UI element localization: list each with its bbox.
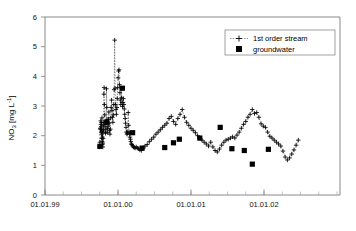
- stream-data-point: [206, 144, 210, 148]
- stream-data-point: [241, 122, 245, 126]
- y-tick-label-2: 2: [33, 131, 37, 140]
- stream-data-point: [259, 122, 263, 126]
- groundwater-data-point: [218, 125, 223, 130]
- groundwater-data-point: [97, 144, 102, 149]
- stream-data-point: [105, 105, 109, 109]
- y-tick-label-6: 6: [33, 13, 37, 22]
- groundwater-data-point: [197, 135, 202, 140]
- y-axis-title-bracket: ]: [7, 95, 16, 97]
- stream-data-point: [111, 120, 115, 124]
- stream-data-point: [209, 140, 213, 144]
- stream-data-point: [217, 147, 221, 151]
- stream-data-point: [171, 119, 175, 123]
- groundwater-data-point: [242, 148, 247, 153]
- y-axis-title: NO3 [mg L-1]: [6, 95, 17, 140]
- y-tick-label-4: 4: [33, 72, 37, 81]
- groundwater-data-point: [139, 146, 144, 151]
- stream-data-point: [237, 130, 241, 134]
- y-tick-label-5: 5: [33, 42, 37, 51]
- groundwater-data-point: [266, 147, 271, 152]
- stream-data-point: [124, 125, 128, 129]
- chart-legend[interactable]: 1st order stream groundwater: [225, 30, 335, 55]
- groundwater-data-point: [162, 145, 167, 150]
- stream-data-point: [252, 111, 256, 115]
- groundwater-data-point: [120, 86, 125, 91]
- x-tick-label-01.01.00: 01.01.00: [103, 200, 132, 209]
- stream-data-point: [116, 76, 120, 80]
- stream-data-point: [128, 137, 132, 141]
- legend-label-groundwater: groundwater: [253, 45, 295, 54]
- x-tick-label-01.01.01: 01.01.01: [176, 200, 205, 209]
- stream-data-point: [287, 156, 291, 160]
- stream-data-point: [109, 105, 113, 109]
- stream-data-point: [123, 121, 127, 125]
- stream-data-point: [239, 126, 243, 130]
- stream-data-point: [294, 143, 298, 147]
- stream-data-point: [102, 102, 106, 106]
- stream-data-point: [114, 112, 118, 116]
- stream-data-point: [250, 107, 254, 111]
- stream-data-point: [296, 138, 300, 142]
- stream-data-point: [111, 113, 115, 117]
- stream-data-point: [283, 155, 287, 159]
- stream-data-point: [180, 107, 184, 111]
- stream-data-point: [265, 130, 269, 134]
- x-tick-label-01.01.99: 01.01.99: [30, 200, 59, 209]
- stream-data-point: [255, 110, 259, 114]
- legend-label-stream: 1st order stream: [253, 34, 308, 43]
- stream-data-point: [123, 116, 127, 120]
- y-tick-label-1: 1: [33, 161, 37, 170]
- stream-data-point: [257, 115, 261, 119]
- x-tick-label-01.01.02: 01.01.02: [249, 200, 278, 209]
- stream-data-point: [182, 115, 186, 119]
- stream-series-markers: [97, 38, 300, 162]
- groundwater-data-point: [177, 137, 182, 142]
- y-tick-label-0: 0: [33, 191, 37, 200]
- stream-data-point: [167, 116, 171, 120]
- stream-data-point: [126, 123, 130, 127]
- y-tick-label-3: 3: [33, 102, 37, 111]
- groundwater-data-point: [104, 120, 109, 125]
- stream-data-point: [211, 145, 215, 149]
- stream-data-point: [102, 92, 106, 96]
- stream-data-point: [219, 143, 223, 147]
- legend-groundwater-square: [236, 46, 242, 52]
- nitrate-timeseries-chart: 0123456 01.01.9901.01.0001.01.0101.01.02…: [0, 0, 356, 231]
- stream-data-point: [281, 149, 285, 153]
- stream-data-point: [279, 144, 283, 148]
- stream-data-point: [184, 120, 188, 124]
- x-axis-ticks: 01.01.9901.01.0001.01.0101.01.02: [30, 190, 337, 210]
- y-axis-ticks: 0123456: [33, 13, 45, 200]
- stream-data-point: [246, 115, 250, 119]
- svg-text:NO3 [mg L-1]: NO3 [mg L-1]: [6, 95, 17, 140]
- stream-data-point: [224, 138, 228, 142]
- stream-data-point: [178, 112, 182, 116]
- stream-data-point: [112, 38, 116, 42]
- stream-data-point: [129, 139, 133, 143]
- stream-data-point: [290, 152, 294, 156]
- y-axis-title-units: [mg L: [7, 102, 16, 125]
- stream-data-point: [114, 107, 118, 111]
- groundwater-data-point: [250, 162, 255, 167]
- chart-figure: 0123456 01.01.9901.01.0001.01.0101.01.02…: [0, 0, 356, 231]
- stream-data-point: [176, 116, 180, 120]
- groundwater-data-point: [229, 146, 234, 151]
- y-axis-title-main: NO: [7, 129, 16, 141]
- stream-data-point: [128, 135, 132, 139]
- stream-data-point: [121, 100, 125, 104]
- stream-data-point: [292, 148, 296, 152]
- groundwater-data-point: [171, 140, 176, 145]
- groundwater-data-point: [130, 130, 135, 135]
- stream-data-point: [109, 98, 113, 102]
